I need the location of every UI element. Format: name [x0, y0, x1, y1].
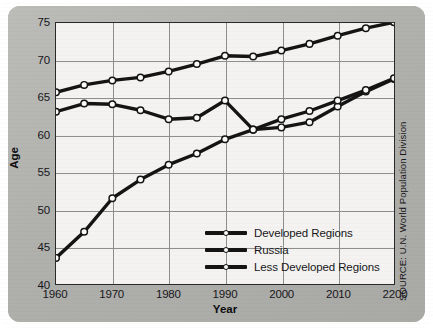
data-point-marker	[81, 82, 88, 89]
data-point-marker	[137, 107, 144, 114]
x-axis-tick-label: 2000	[269, 288, 294, 300]
data-point-marker	[278, 47, 285, 54]
data-point-marker	[81, 100, 88, 107]
data-point-marker	[194, 114, 201, 121]
data-point-marker	[56, 255, 59, 262]
data-point-marker	[109, 77, 116, 84]
data-point-marker	[222, 97, 229, 104]
y-axis-tick-label: 70	[6, 54, 50, 66]
data-point-marker	[306, 41, 313, 48]
legend-item-label: Developed Regions	[254, 227, 353, 239]
data-point-marker	[56, 89, 59, 96]
y-axis-tick-label: 60	[6, 129, 50, 141]
y-axis-tick-label: 50	[6, 204, 50, 216]
legend-item[interactable]: Developed Regions	[204, 225, 374, 241]
data-point-marker	[137, 176, 144, 183]
data-point-marker	[165, 161, 172, 168]
legend-swatch-icon	[204, 244, 248, 256]
data-point-marker	[109, 101, 116, 108]
data-point-marker	[363, 25, 370, 32]
data-point-marker	[165, 68, 172, 75]
data-point-marker	[250, 53, 257, 60]
data-point-marker	[194, 61, 201, 68]
data-point-marker	[222, 53, 229, 60]
data-point-marker	[334, 97, 341, 104]
data-point-marker	[250, 126, 257, 133]
x-axis-tick-label: 1960	[43, 288, 68, 300]
legend-item[interactable]: Less Developed Regions	[204, 259, 374, 275]
source-note: SOURCE: U.N. World Population Division	[397, 122, 408, 301]
data-point-marker	[109, 195, 116, 202]
data-point-marker	[306, 108, 313, 115]
x-axis-tick-label: 1970	[99, 288, 124, 300]
legend-item-label: Less Developed Regions	[254, 261, 380, 273]
data-point-marker	[391, 23, 394, 26]
y-axis-tick-label: 65	[6, 91, 50, 103]
data-point-marker	[391, 75, 394, 82]
data-point-marker	[363, 87, 370, 94]
data-point-marker	[194, 150, 201, 157]
x-axis-title: Year	[55, 303, 395, 315]
chart-legend: Developed RegionsRussiaLess Developed Re…	[204, 225, 374, 276]
chart-page: 4045505560657075 19601970198019902000201…	[0, 0, 433, 328]
data-point-marker	[137, 74, 144, 81]
x-axis-tick-label: 1990	[213, 288, 238, 300]
data-point-marker	[222, 136, 229, 143]
legend-item[interactable]: Russia	[204, 242, 374, 258]
y-axis-tick-label: 75	[6, 16, 50, 28]
data-point-marker	[278, 116, 285, 123]
data-point-marker	[56, 108, 59, 115]
data-point-marker	[81, 229, 88, 236]
x-axis-tick-label: 1980	[156, 288, 181, 300]
data-point-marker	[165, 116, 172, 123]
data-point-marker	[306, 119, 313, 126]
legend-item-label: Russia	[254, 244, 289, 256]
legend-swatch-icon	[204, 261, 248, 273]
y-axis-title: Age	[8, 147, 20, 169]
x-axis-tick-label: 2010	[326, 288, 351, 300]
data-point-marker	[278, 124, 285, 131]
y-axis-tick-label: 45	[6, 241, 50, 253]
legend-swatch-icon	[204, 227, 248, 239]
data-point-marker	[334, 32, 341, 39]
